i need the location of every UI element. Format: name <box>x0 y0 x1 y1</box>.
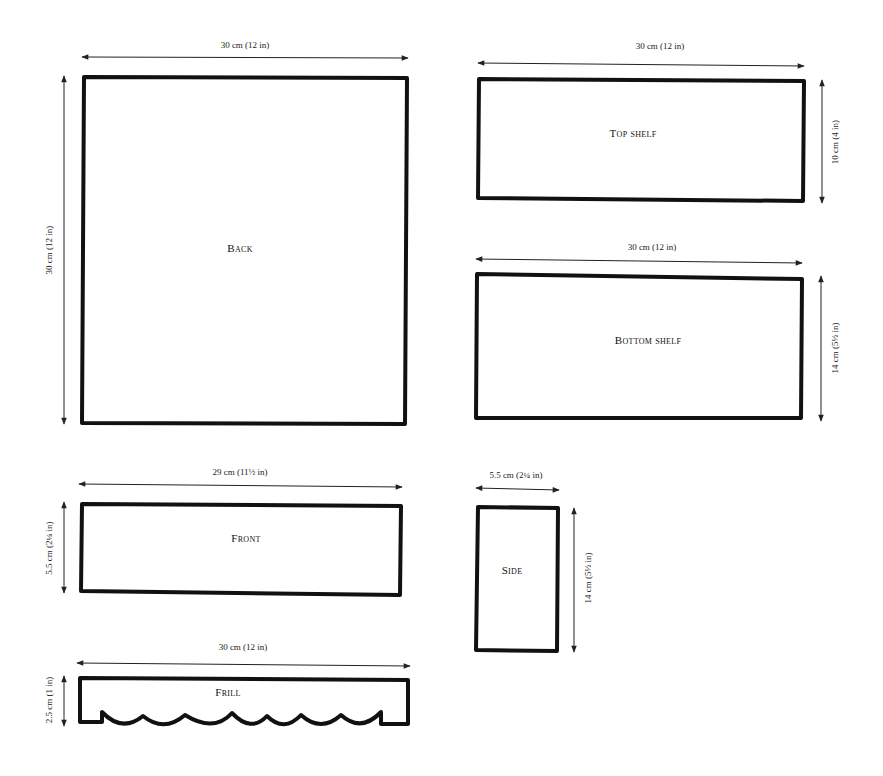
piece-back: 30 cm (12 in) 30 cm (12 in) Back <box>44 40 408 424</box>
side-width-arrow <box>476 488 559 490</box>
piece-front: 29 cm (11½ in) 5.5 cm (2¼ in) Front <box>44 467 402 595</box>
side-width-label: 5.5 cm (2¼ in) <box>489 470 542 480</box>
bottom-shelf-width-label: 30 cm (12 in) <box>628 242 677 252</box>
frill-width-arrow <box>77 663 410 666</box>
back-width-label: 30 cm (12 in) <box>221 40 270 50</box>
front-width-label: 29 cm (11½ in) <box>212 467 267 477</box>
side-outline <box>476 507 558 651</box>
piece-side: 5.5 cm (2¼ in) 14 cm (5½ in) Side <box>476 470 593 652</box>
piece-frill: 30 cm (12 in) 2.5 cm (1 in) Frill <box>44 642 410 726</box>
top-shelf-outline <box>478 79 804 201</box>
front-label: Front <box>231 532 260 544</box>
back-height-label: 30 cm (12 in) <box>44 226 54 275</box>
piece-bottom-shelf: 30 cm (12 in) 14 cm (5½ in) Bottom shelf <box>476 242 840 421</box>
bottom-shelf-label: Bottom shelf <box>615 334 682 346</box>
front-height-label: 5.5 cm (2¼ in) <box>44 521 54 574</box>
frill-label: Frill <box>215 686 240 698</box>
back-width-arrow <box>82 57 408 58</box>
bottom-shelf-width-arrow <box>476 259 802 263</box>
front-width-arrow <box>79 484 402 487</box>
top-shelf-label: Top shelf <box>610 127 657 139</box>
top-shelf-height-label: 10 cm (4 in) <box>830 120 840 164</box>
front-outline <box>81 504 401 595</box>
frill-outline <box>80 678 408 724</box>
side-height-label: 14 cm (5½ in) <box>583 553 593 604</box>
frill-width-label: 30 cm (12 in) <box>219 642 268 652</box>
top-shelf-width-label: 30 cm (12 in) <box>636 41 685 51</box>
bottom-shelf-outline <box>476 274 802 418</box>
piece-top-shelf: 30 cm (12 in) 10 cm (4 in) Top shelf <box>478 41 840 203</box>
pattern-diagram: 30 cm (12 in) 30 cm (12 in) Back 30 cm (… <box>0 0 883 776</box>
side-label: Side <box>502 564 523 576</box>
top-shelf-width-arrow <box>478 63 804 66</box>
frill-height-label: 2.5 cm (1 in) <box>44 677 54 724</box>
back-label: Back <box>227 242 252 254</box>
bottom-shelf-height-label: 14 cm (5½ in) <box>830 323 840 374</box>
